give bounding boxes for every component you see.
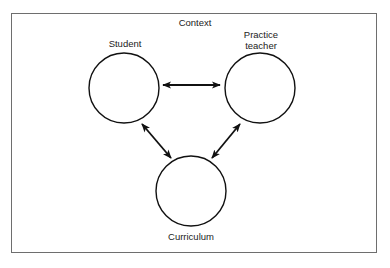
student-node [89, 53, 159, 123]
teacher-curriculum-arrow [212, 124, 240, 158]
diagram-graphics [0, 0, 390, 268]
curriculum-node [156, 156, 226, 226]
practice-teacher-node [225, 53, 295, 123]
student-curriculum-arrow [142, 124, 171, 158]
